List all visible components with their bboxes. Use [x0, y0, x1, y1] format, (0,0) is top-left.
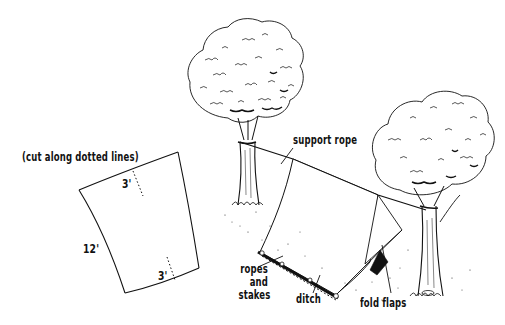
support-rope-label: support rope	[293, 134, 357, 147]
left-tree	[188, 19, 303, 205]
ropes-and-stakes-line-3: stakes	[238, 289, 268, 302]
cut-top-dimension: 3'	[122, 177, 132, 191]
ditch-label: ditch	[296, 293, 321, 306]
side-length-dimension: 12'	[83, 242, 99, 256]
right-tree	[372, 91, 494, 296]
cut-bottom-dimension: 3'	[158, 269, 168, 283]
sheet-diagram	[79, 152, 199, 293]
tent-diagram: (cut along dotted lines) 3' 12' 3' suppo…	[0, 0, 505, 325]
cut-instruction-caption: (cut along dotted lines)	[22, 151, 139, 164]
fold-flaps-label: fold flaps	[360, 297, 407, 310]
ropes-and-stakes-label: ropes and stakes	[238, 263, 268, 303]
